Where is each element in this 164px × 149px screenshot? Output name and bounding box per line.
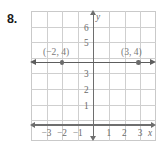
x-tick-label-neg1: −1	[73, 129, 83, 138]
x-tick-label-2: 2	[122, 129, 127, 138]
plot-line-arrow-right-icon	[150, 59, 156, 65]
y-tick-label-2: 2	[84, 86, 89, 95]
data-point	[136, 60, 141, 65]
x-tick-label-3: 3	[138, 129, 143, 138]
plot-line-arrow-left-icon	[30, 59, 36, 65]
y-tick-label-3: 3	[84, 70, 89, 79]
y-axis	[93, 14, 95, 138]
x-axis	[34, 124, 153, 126]
problem-number: 8.	[7, 13, 17, 26]
x-tick-label-1: 1	[107, 129, 112, 138]
x-tick-label-neg3: −3	[42, 129, 52, 138]
y-tick-label-6: 6	[84, 24, 89, 33]
gridline-vertical	[109, 11, 110, 141]
exercise-figure: 8. (−2, 4) (	[0, 0, 164, 149]
gridline-vertical	[47, 11, 48, 141]
gridline-vertical	[78, 11, 79, 141]
gridline-vertical	[125, 11, 126, 141]
gridline-vertical	[62, 11, 63, 141]
y-tick-label-5: 5	[84, 39, 89, 48]
point-label-left: (−2, 4)	[43, 47, 69, 57]
y-tick-label-1: 1	[84, 102, 89, 111]
x-axis-name: x	[148, 129, 152, 138]
x-axis-arrow-left-icon	[30, 122, 35, 128]
y-axis-arrow-down-icon	[90, 136, 96, 141]
x-tick-label-neg2: −2	[57, 129, 67, 138]
gridline-vertical	[140, 11, 141, 141]
plot-line-y-equals-4	[35, 62, 152, 64]
point-label-right: (3, 4)	[121, 47, 142, 57]
y-axis-name: y	[96, 13, 100, 22]
coordinate-plane: (−2, 4) (3, 4) 6 5 3 2 1 −3 −2 −1 1 2 3 …	[31, 11, 156, 141]
